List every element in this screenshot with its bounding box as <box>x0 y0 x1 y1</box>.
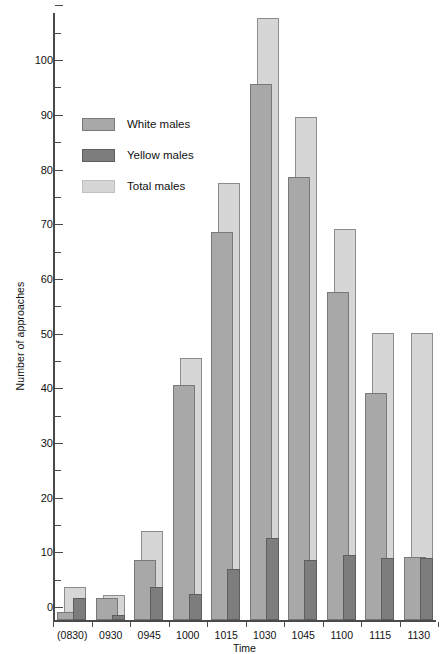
bar-white-males <box>211 232 233 620</box>
x-tick <box>92 622 93 627</box>
bar-group <box>130 13 169 620</box>
x-axis-title: Time <box>53 642 436 654</box>
legend-swatch-icon <box>82 118 115 131</box>
legend-item: Total males <box>82 175 194 197</box>
legend: White malesYellow malesTotal males <box>82 113 194 206</box>
legend-item: White males <box>82 113 194 135</box>
bar-yellow-males <box>381 558 394 620</box>
bar-yellow-males <box>189 594 202 620</box>
y-tick-label: 40 <box>23 383 53 394</box>
bar-group <box>284 13 323 620</box>
bar-group <box>169 13 208 620</box>
x-tick <box>130 622 131 627</box>
bar-group <box>246 13 285 620</box>
y-tick-label: 80 <box>23 165 53 176</box>
y-tick-label: 60 <box>23 274 53 285</box>
bar-group <box>53 13 92 620</box>
legend-swatch-icon <box>82 149 115 162</box>
y-tick-label: 90 <box>23 110 53 121</box>
y-axis-ticks: 0102030405060708090100 <box>0 0 53 640</box>
x-tick <box>53 622 54 627</box>
y-tick-label: 30 <box>23 438 53 449</box>
x-tick-label: 1130 <box>390 629 443 641</box>
x-tick <box>361 622 362 627</box>
bar-yellow-males <box>304 560 317 620</box>
y-tick-label: 50 <box>23 329 53 340</box>
y-tick-label: 10 <box>23 547 53 558</box>
bar-group <box>400 13 439 620</box>
bar-yellow-males <box>343 555 356 620</box>
legend-label: Yellow males <box>127 149 194 161</box>
y-tick <box>55 5 63 6</box>
bar-white-males <box>173 385 195 620</box>
legend-item: Yellow males <box>82 144 194 166</box>
legend-label: White males <box>127 118 190 130</box>
x-tick <box>207 622 208 627</box>
y-tick-label: 100 <box>23 55 53 66</box>
plot-area <box>53 13 438 620</box>
legend-swatch-icon <box>82 180 115 193</box>
bar-yellow-males <box>266 538 279 620</box>
x-tick <box>169 622 170 627</box>
bar-yellow-males <box>227 569 240 620</box>
bar-group <box>92 13 131 620</box>
y-tick-label: 70 <box>23 219 53 230</box>
y-axis-title: Number of approaches <box>14 256 26 416</box>
bar-yellow-males <box>150 587 163 620</box>
x-tick <box>438 622 439 627</box>
x-tick <box>284 622 285 627</box>
x-tick <box>400 622 401 627</box>
bar-group <box>361 13 400 620</box>
bar-group <box>323 13 362 620</box>
x-tick <box>246 622 247 627</box>
bar-yellow-males <box>73 598 86 620</box>
y-tick-label: 0 <box>23 602 53 613</box>
y-tick-label: 20 <box>23 493 53 504</box>
legend-label: Total males <box>127 180 185 192</box>
bar-white-males <box>288 177 310 620</box>
bar-yellow-males <box>420 558 433 620</box>
bar-group <box>207 13 246 620</box>
bar-yellow-males <box>112 615 125 620</box>
x-tick <box>323 622 324 627</box>
x-axis-line <box>53 620 436 622</box>
